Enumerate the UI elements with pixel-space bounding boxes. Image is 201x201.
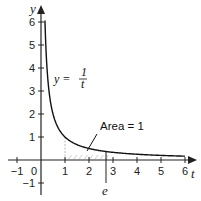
- y-tick-label: 6: [29, 16, 35, 28]
- shade-hatch: [100, 155, 103, 159]
- e-label: e: [102, 183, 108, 198]
- y-tick-label: 5: [29, 39, 35, 51]
- x-tick-label: 4: [134, 165, 140, 177]
- shade-hatch: [74, 155, 77, 159]
- shade-hatch: [95, 155, 98, 159]
- x-axis-label: t: [191, 166, 195, 181]
- y-tick-label: 3: [29, 85, 35, 97]
- y-tick-label: 4: [29, 62, 35, 74]
- y-tick-label: 2: [29, 108, 35, 120]
- shade-hatch: [90, 155, 93, 159]
- y-tick-label: 1: [29, 131, 35, 143]
- x-tick-label: −1: [11, 165, 24, 177]
- curve-1-over-t: [45, 21, 185, 157]
- x-axis-arrow-icon: [188, 156, 197, 164]
- x-tick-label: 1: [62, 165, 68, 177]
- x-tick-label: 5: [158, 165, 164, 177]
- area-pointer: [87, 134, 97, 151]
- shade-hatch: [84, 155, 87, 159]
- x-tick-label: 2: [86, 165, 92, 177]
- shade-hatch: [79, 155, 82, 159]
- origin-label: 0: [31, 165, 37, 177]
- shade-hatch: [69, 155, 72, 159]
- chart-plot: −1123456 −1123456 e y t 0 y = 1 t Area =…: [0, 0, 201, 201]
- equation-lhs: y =: [53, 72, 70, 86]
- y-axis-arrow-icon: [37, 5, 45, 14]
- y-tick-label: −1: [22, 177, 35, 189]
- y-axis-label: y: [28, 1, 36, 16]
- area-label: Area = 1: [100, 120, 144, 132]
- x-tick-label: 3: [110, 165, 116, 177]
- x-tick-label: 6: [182, 165, 188, 177]
